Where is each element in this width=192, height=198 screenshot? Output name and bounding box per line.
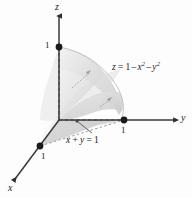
- z-tick-label-1: 1: [45, 41, 50, 50]
- diagram-canvas: [0, 0, 192, 198]
- paraboloid-surface: [40, 47, 123, 121]
- plane-plus: +: [72, 135, 78, 145]
- y-axis-label: y: [181, 113, 185, 123]
- z-axis-label: z: [55, 2, 59, 12]
- equation-minus-b: –: [146, 62, 151, 72]
- z-tick-dot: [56, 44, 63, 51]
- plane-var-x: x: [66, 135, 70, 145]
- y-tick-label-1: 1: [121, 126, 126, 135]
- x-tick-dot: [37, 143, 44, 150]
- paraboloid-diagram: z y x 1 1 1 z=1–x2–y2 x+y=1: [0, 0, 192, 198]
- equation-exp-x: 2: [142, 60, 145, 67]
- equation-rhs-one: 1: [125, 62, 130, 72]
- plane-equals: =: [86, 135, 92, 145]
- plane-var-y: y: [80, 135, 84, 145]
- x-axis-label: x: [8, 183, 12, 193]
- equation-lhs: z: [112, 62, 116, 72]
- equation-exp-y: 2: [157, 60, 160, 67]
- equation-minus-a: –: [131, 62, 136, 72]
- x-tick-label-1: 1: [41, 152, 46, 161]
- surface-equation-label: z=1–x2–y2: [112, 63, 160, 73]
- x-axis: [15, 120, 59, 179]
- y-tick-dot: [121, 117, 128, 124]
- equation-equals: =: [118, 62, 124, 72]
- plane-rhs: 1: [94, 135, 99, 145]
- plane-equation-label: x+y=1: [66, 136, 99, 146]
